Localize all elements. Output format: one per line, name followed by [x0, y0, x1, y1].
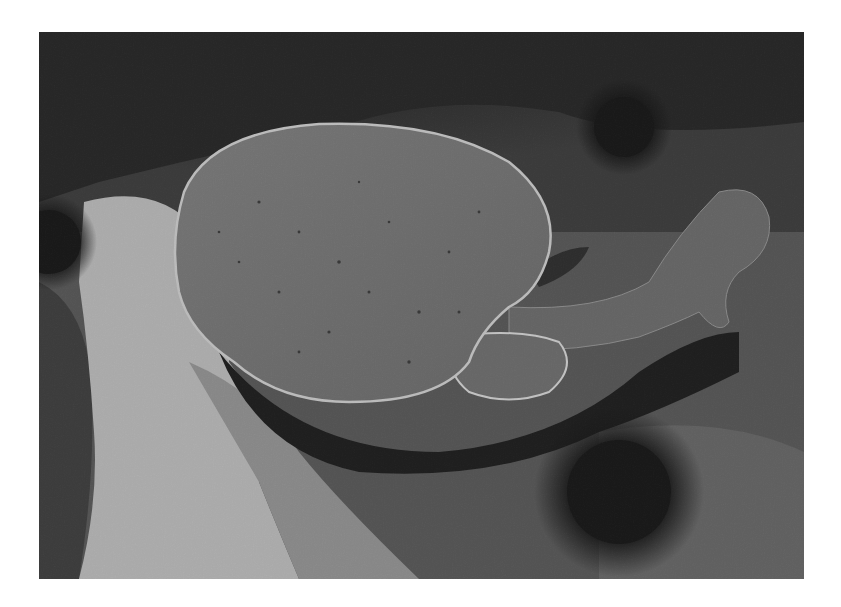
photo-canvas [39, 32, 804, 579]
underwater-photo [39, 32, 804, 579]
